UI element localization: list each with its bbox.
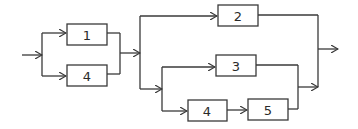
block-label: 2 xyxy=(234,9,242,24)
block-label: 4 xyxy=(83,69,91,84)
block-diagram: 1 4 2 3 4 5 xyxy=(0,0,358,129)
block-5: 5 xyxy=(248,99,288,120)
block-4b: 4 xyxy=(188,100,227,121)
block-label: 4 xyxy=(203,104,211,119)
block-label: 3 xyxy=(232,59,240,74)
block-1: 1 xyxy=(67,24,107,45)
block-3: 3 xyxy=(216,55,256,76)
block-label: 5 xyxy=(264,103,272,118)
block-label: 1 xyxy=(83,28,91,43)
block-2: 2 xyxy=(218,5,258,26)
block-4a: 4 xyxy=(67,65,107,86)
